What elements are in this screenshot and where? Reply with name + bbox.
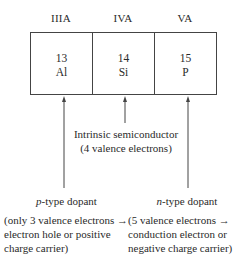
intrinsic-caption: Intrinsic semiconductor (4 valence elect… [60, 127, 192, 155]
n-type-title: n-type dopant [128, 194, 246, 208]
p-type-caption: p-type dopant (only 3 valence electrons … [4, 194, 129, 255]
intrinsic-line2: (4 valence electrons) [60, 141, 192, 155]
n-type-caption: n-type dopant (5 valence electrons → con… [128, 194, 246, 255]
p-type-title: p-type dopant [4, 194, 129, 208]
intrinsic-line1: Intrinsic semiconductor [60, 127, 192, 141]
